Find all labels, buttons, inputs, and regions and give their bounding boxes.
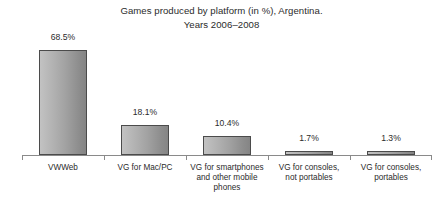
axis-tick-2 xyxy=(186,155,187,160)
category-label-line: not portables xyxy=(268,173,350,183)
category-label-vg-consoles-portables: VG for consoles, portables xyxy=(350,163,432,183)
chart-title: Games produced by platform (in %), Argen… xyxy=(0,4,443,31)
bar-value-vg-mac-pc: 18.1% xyxy=(133,108,157,117)
chart-title-line-1: Games produced by platform (in %), Argen… xyxy=(0,4,443,18)
bar-value-vwweb: 68.5% xyxy=(51,33,75,42)
axis-tick-3 xyxy=(268,155,269,160)
bar-slot-vg-smartphones: 10.4% xyxy=(186,30,268,155)
category-label-line: VG for smartphones xyxy=(184,163,270,173)
category-label-line: VG for Mac/PC xyxy=(104,163,186,173)
bar-slot-vg-mac-pc: 18.1% xyxy=(104,30,186,155)
category-label-vg-mac-pc: VG for Mac/PC xyxy=(104,163,186,173)
category-label-line: phones xyxy=(184,183,270,193)
bar-chart: Games produced by platform (in %), Argen… xyxy=(0,0,443,200)
category-label-vg-smartphones: VG for smartphones and other mobile phon… xyxy=(184,163,270,193)
chart-title-line-2: Years 2006–2008 xyxy=(0,18,443,32)
category-label-vwweb: VWWeb xyxy=(22,163,104,173)
bar-value-vg-consoles-not-portables: 1.7% xyxy=(299,134,319,143)
axis-tick-0 xyxy=(22,155,23,160)
category-label-line: VG for consoles, xyxy=(268,163,350,173)
bar-value-vg-consoles-portables: 1.3% xyxy=(381,134,401,143)
category-label-line: VG for consoles, xyxy=(350,163,432,173)
bar-slot-vg-consoles-portables: 1.3% xyxy=(350,30,432,155)
axis-tick-1 xyxy=(104,155,105,160)
bar-vg-mac-pc[interactable] xyxy=(121,125,169,155)
plot-area: 68.5% 18.1% 10.4% 1.7% 1.3% xyxy=(22,30,432,155)
category-label-vg-consoles-not-portables: VG for consoles, not portables xyxy=(268,163,350,183)
bar-slot-vg-consoles-not-portables: 1.7% xyxy=(268,30,350,155)
category-label-line: VWWeb xyxy=(22,163,104,173)
category-label-line: and other mobile xyxy=(184,173,270,183)
x-axis-line xyxy=(22,155,432,156)
bar-vg-smartphones[interactable] xyxy=(203,136,251,155)
bar-value-vg-smartphones: 10.4% xyxy=(215,119,239,128)
axis-tick-4 xyxy=(350,155,351,160)
axis-tick-5 xyxy=(431,155,432,160)
bar-slot-vwweb: 68.5% xyxy=(22,30,104,155)
category-label-line: portables xyxy=(350,173,432,183)
bar-vwweb[interactable] xyxy=(39,50,87,155)
